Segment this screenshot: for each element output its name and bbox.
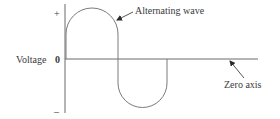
negative-half-cycle — [118, 59, 167, 107]
zero-axis-pointer-arrow — [230, 61, 244, 78]
tick-minus: – — [53, 106, 60, 117]
tick-zero: 0 — [55, 54, 60, 65]
voltage-label: Voltage — [16, 54, 47, 65]
wave-pointer-arrow — [117, 12, 133, 20]
zero-axis-label: Zero axis — [224, 79, 262, 90]
ac-waveform-diagram: + 0 – Voltage Alternating wave Zero axis — [0, 0, 280, 119]
alternating-wave-label: Alternating wave — [135, 5, 205, 16]
diagram-canvas: + 0 – Voltage Alternating wave Zero axis — [0, 0, 280, 119]
tick-plus: + — [54, 8, 60, 19]
positive-half-cycle — [66, 8, 118, 59]
